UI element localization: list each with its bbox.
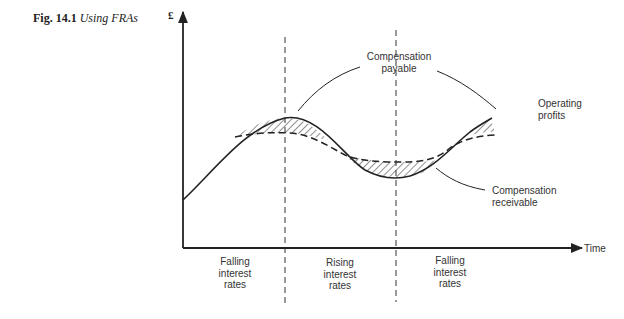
label-compensation-receivable: Compensation receivable [492, 185, 556, 208]
label-line: Operating [538, 98, 582, 110]
label-line: receivable [492, 197, 556, 209]
operating-profits-curve [183, 117, 492, 200]
label-line: interest [310, 269, 370, 281]
label-line: rates [310, 280, 370, 292]
leader-payable-left [298, 67, 360, 111]
label-line: rates [420, 278, 480, 290]
label-line: Compensation [362, 51, 436, 63]
hatched-compensation-areas [235, 118, 495, 177]
label-line: interest [205, 268, 265, 280]
label-compensation-payable: Compensation payable [362, 51, 436, 74]
label-line: Rising [310, 257, 370, 269]
y-axis-label: £ [168, 9, 174, 21]
label-line: Compensation [492, 185, 556, 197]
hedged-profits-curve [235, 133, 495, 162]
period-label-1: Falling interest rates [205, 256, 265, 291]
label-line: Falling [420, 255, 480, 267]
label-line: Falling [205, 256, 265, 268]
period-label-2: Rising interest rates [310, 257, 370, 292]
label-line: profits [538, 110, 582, 122]
leader-payable-right [437, 71, 496, 109]
label-line: payable [362, 63, 436, 75]
label-operating-profits: Operating profits [538, 98, 582, 121]
period-label-3: Falling interest rates [420, 255, 480, 290]
leader-receivable [436, 168, 485, 190]
x-axis-label: Time [584, 243, 606, 255]
label-line: interest [420, 267, 480, 279]
label-line: rates [205, 279, 265, 291]
